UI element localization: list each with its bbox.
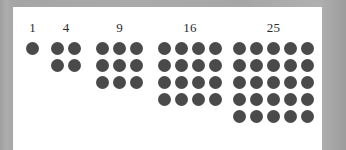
dot-cell <box>156 74 173 91</box>
dot-group-label: 1 <box>24 21 41 34</box>
dot-cell <box>49 40 66 57</box>
dot-cell <box>248 91 265 108</box>
dot-cell <box>282 108 299 125</box>
dot-marker <box>233 59 246 72</box>
dot-marker <box>284 59 297 72</box>
dot-marker <box>233 110 246 123</box>
dot-marker <box>250 42 263 55</box>
dot-marker <box>158 59 171 72</box>
dot-marker <box>301 42 314 55</box>
dot-cell <box>248 108 265 125</box>
dot-marker <box>209 76 222 89</box>
dot-marker <box>233 93 246 106</box>
dot-marker <box>158 76 171 89</box>
dot-marker <box>301 93 314 106</box>
dot-cell <box>173 91 190 108</box>
dot-grid <box>156 40 224 108</box>
dot-cell <box>231 108 248 125</box>
dot-marker <box>175 59 188 72</box>
dot-marker <box>192 59 205 72</box>
dot-marker <box>267 93 280 106</box>
dot-cell <box>282 40 299 57</box>
dot-cell <box>24 40 41 57</box>
dot-cell <box>299 91 316 108</box>
dot-marker <box>301 59 314 72</box>
dot-cell <box>111 40 128 57</box>
dot-cell <box>248 40 265 57</box>
dot-marker <box>209 59 222 72</box>
dot-cell <box>299 108 316 125</box>
dot-marker <box>26 42 39 55</box>
dot-cell <box>173 57 190 74</box>
dot-cell <box>207 91 224 108</box>
dot-group-label: 9 <box>94 21 145 34</box>
dot-marker <box>68 42 81 55</box>
dot-cell <box>190 40 207 57</box>
dot-marker <box>284 110 297 123</box>
dot-marker <box>284 93 297 106</box>
dot-cell <box>231 74 248 91</box>
dot-marker <box>233 42 246 55</box>
dot-marker <box>284 76 297 89</box>
dot-cell <box>190 91 207 108</box>
dot-group-label: 16 <box>156 21 224 34</box>
dot-grid <box>94 40 145 91</box>
dot-marker <box>130 42 143 55</box>
dot-cell <box>190 57 207 74</box>
dot-marker <box>158 93 171 106</box>
dot-cell <box>94 57 111 74</box>
dot-marker <box>68 59 81 72</box>
dot-cell <box>128 57 145 74</box>
dot-grid <box>49 40 83 74</box>
dot-cell <box>128 40 145 57</box>
dot-cell <box>231 40 248 57</box>
dot-cell <box>207 57 224 74</box>
dot-marker <box>113 59 126 72</box>
dot-marker <box>267 59 280 72</box>
dot-cell <box>265 108 282 125</box>
dot-cell <box>265 91 282 108</box>
dot-marker <box>301 76 314 89</box>
dot-cell <box>156 57 173 74</box>
dot-marker <box>209 42 222 55</box>
dot-marker <box>192 76 205 89</box>
dot-marker <box>175 93 188 106</box>
dot-marker <box>267 42 280 55</box>
dot-cell <box>128 74 145 91</box>
dot-cell <box>282 91 299 108</box>
dot-cell <box>299 74 316 91</box>
dot-marker <box>130 76 143 89</box>
dot-cell <box>173 74 190 91</box>
dot-cell <box>282 57 299 74</box>
dot-marker <box>267 110 280 123</box>
dot-cell <box>66 57 83 74</box>
dot-marker <box>192 93 205 106</box>
dot-cell <box>156 91 173 108</box>
dot-marker <box>175 42 188 55</box>
dot-cell <box>207 40 224 57</box>
dot-cell <box>248 74 265 91</box>
figure-root: 1491625 <box>0 0 346 150</box>
dot-cell <box>231 57 248 74</box>
dot-marker <box>250 93 263 106</box>
dot-cell <box>156 40 173 57</box>
dot-cell <box>248 57 265 74</box>
dot-marker <box>96 42 109 55</box>
dot-cell <box>282 74 299 91</box>
dot-marker <box>284 42 297 55</box>
dot-marker <box>209 93 222 106</box>
dot-cell <box>111 57 128 74</box>
dot-marker <box>113 76 126 89</box>
figure-card: 1491625 <box>13 7 322 150</box>
dot-cell <box>49 57 66 74</box>
dot-marker <box>51 59 64 72</box>
dot-marker <box>250 76 263 89</box>
dot-cell <box>231 91 248 108</box>
dot-marker <box>158 42 171 55</box>
dot-cell <box>190 74 207 91</box>
dot-cell <box>94 74 111 91</box>
dot-marker <box>192 42 205 55</box>
dot-marker <box>113 42 126 55</box>
dot-marker <box>51 42 64 55</box>
dot-group-label: 4 <box>49 21 83 34</box>
